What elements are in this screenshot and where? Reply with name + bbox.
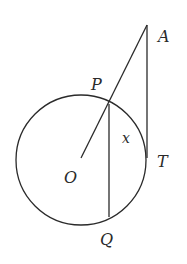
- label-o: O: [64, 168, 77, 187]
- circle-o: [16, 95, 146, 225]
- angle-label-x: x: [122, 130, 130, 146]
- label-a: A: [156, 27, 170, 46]
- geometry-diagram: A P O T Q x: [0, 0, 187, 264]
- label-q: Q: [100, 230, 113, 249]
- label-p: P: [90, 75, 102, 94]
- label-t: T: [157, 152, 169, 171]
